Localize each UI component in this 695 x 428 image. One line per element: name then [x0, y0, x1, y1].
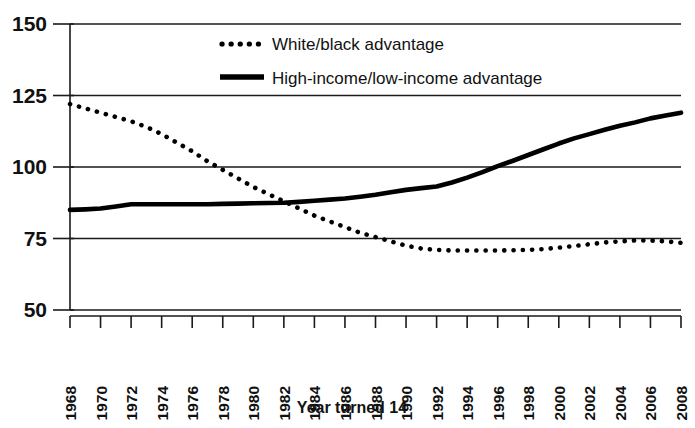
x-tick-label: 1994 — [459, 386, 476, 421]
x-tick-label: 1998 — [520, 386, 537, 421]
gridline-group — [70, 24, 681, 310]
x-tick-label: 2000 — [551, 386, 568, 420]
legend-label-high-low-income: High-income/low-income advantage — [272, 69, 542, 88]
x-tick-label: 1972 — [123, 386, 140, 420]
y-tick-label: 150 — [12, 12, 47, 35]
chart-container: 5075100125150 19681970197219741976197819… — [0, 0, 695, 428]
x-tick-label: 1974 — [154, 386, 171, 421]
x-tick-label: 2004 — [612, 386, 629, 421]
x-tick-label: 1978 — [215, 386, 232, 421]
y-tick-label: 100 — [12, 155, 47, 178]
chart-legend: White/black advantage High-income/low-in… — [220, 35, 542, 88]
x-tick-label: 1970 — [93, 386, 110, 420]
y-tick-label: 125 — [12, 84, 47, 107]
y-tick-label: 50 — [24, 298, 47, 321]
y-axis-tick-labels: 5075100125150 — [12, 12, 47, 321]
legend-label-white-black: White/black advantage — [272, 35, 444, 54]
x-tick-label: 1982 — [276, 386, 293, 420]
y-tick-group — [53, 24, 74, 310]
x-tick-label: 1976 — [184, 386, 201, 421]
x-tick-label: 2008 — [673, 386, 690, 421]
x-tick-label: 1992 — [429, 386, 446, 420]
x-axis-title: Year turned 14 — [297, 399, 407, 416]
x-tick-label: 1968 — [62, 386, 79, 421]
x-tick-label: 1996 — [490, 386, 507, 421]
series-white-black-advantage — [70, 104, 681, 250]
line-chart: 5075100125150 19681970197219741976197819… — [0, 0, 695, 428]
y-tick-label: 75 — [24, 227, 48, 250]
x-tick-label: 1980 — [245, 386, 262, 420]
x-tick-label: 2006 — [642, 386, 659, 421]
x-tick-label: 2002 — [581, 386, 598, 420]
series-high-income-low-income-advantage — [70, 113, 681, 210]
x-tick-group — [70, 316, 681, 328]
